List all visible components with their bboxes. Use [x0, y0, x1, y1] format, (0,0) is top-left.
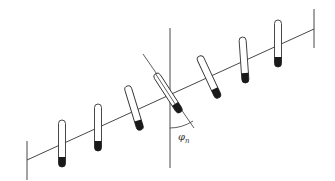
angle-label-phi-n: φn: [178, 132, 190, 145]
test-tube-2: [95, 104, 102, 151]
diagram: φn: [0, 0, 335, 181]
test-tube-6: [239, 37, 249, 83]
test-tube-4-center: [153, 72, 184, 114]
diagram-canvas: [0, 0, 335, 181]
test-tube-1: [59, 120, 66, 167]
angle-subscript: n: [185, 137, 190, 145]
test-tube-7: [275, 20, 282, 67]
test-tube-5: [196, 55, 222, 100]
angle-symbol: φ: [178, 131, 185, 142]
